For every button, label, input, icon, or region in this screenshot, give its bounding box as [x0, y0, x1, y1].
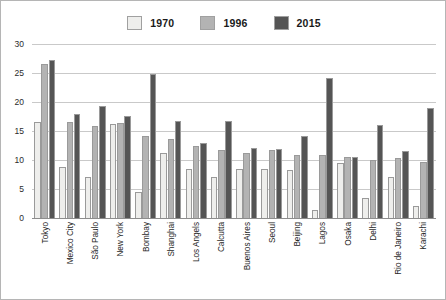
x-tick-label-los-angels: Los Angels [192, 222, 201, 262]
bar-2015-mexico-city [74, 114, 81, 218]
bar-2015-seoul [276, 149, 283, 218]
bar-group [184, 44, 209, 218]
bar-1996-los-angels [193, 146, 200, 218]
bar-group [234, 44, 259, 218]
bar-1996-mexico-city [67, 122, 74, 218]
bar-1970-los-angels [186, 169, 193, 218]
bar-1970-new-york [110, 124, 117, 218]
bar-2015-new-york [124, 116, 131, 218]
bar-2015-karachi [427, 108, 434, 218]
bar-1996-new-york [117, 123, 124, 218]
bar-1970-beijing [287, 170, 294, 218]
bar-1996-rio-de-janeiro [395, 158, 402, 218]
bar-1970-lagos [312, 210, 319, 218]
x-tick-label-osaka: Osaka [343, 222, 352, 246]
y-tick-10: 10 [15, 155, 24, 165]
bar-2015-são-paulo [99, 106, 106, 218]
y-tick-25: 25 [15, 68, 24, 78]
bar-1970-bombay [135, 192, 142, 218]
bar-1996-buenos-aires [243, 153, 250, 218]
bar-2015-osaka [352, 157, 359, 218]
x-tick: Beijing [285, 220, 310, 298]
bar-groups [32, 44, 436, 218]
gridline-0 [32, 218, 436, 219]
bar-group [209, 44, 234, 218]
bar-group [57, 44, 82, 218]
x-tick: Buenos Aires [234, 220, 259, 298]
bar-group [259, 44, 284, 218]
bar-1970-são-paulo [85, 177, 92, 218]
bar-1996-osaka [344, 157, 351, 218]
bar-1970-mexico-city [59, 167, 66, 218]
x-tick-label-karachi: Karachi [419, 222, 428, 250]
bar-group [108, 44, 133, 218]
x-tick: Seoul [259, 220, 284, 298]
x-tick-label-new-york: New York [116, 222, 125, 257]
bar-2015-rio-de-janeiro [402, 151, 409, 218]
bar-1970-buenos-aires [236, 169, 243, 218]
legend-swatch-1970 [127, 16, 142, 30]
x-tick: Mexico City [57, 220, 82, 298]
bar-group [360, 44, 385, 218]
x-tick: Bombay [133, 220, 158, 298]
bar-2015-calcutta [225, 121, 232, 218]
y-tick-15: 15 [15, 126, 24, 136]
x-tick: Osaka [335, 220, 360, 298]
bar-1970-karachi [413, 206, 420, 218]
bar-1996-karachi [420, 162, 427, 218]
x-tick-label-rio-de-janeiro: Rio de Janeiro [394, 222, 403, 275]
x-tick: São Paulo [83, 220, 108, 298]
legend-label-1996: 1996 [223, 17, 247, 29]
bar-1996-shanghai [168, 139, 175, 218]
y-tick-0: 0 [19, 213, 24, 223]
legend-swatch-1996 [200, 16, 215, 30]
y-tick-5: 5 [19, 184, 24, 194]
bar-group [133, 44, 158, 218]
bar-group [411, 44, 436, 218]
bar-1996-beijing [294, 155, 301, 218]
plot-area [32, 44, 436, 218]
y-tick-30: 30 [15, 39, 24, 49]
bar-2015-bombay [150, 74, 157, 218]
bar-1996-são-paulo [92, 126, 99, 218]
x-tick-label-mexico-city: Mexico City [65, 222, 74, 264]
x-tick-label-buenos-aires: Buenos Aires [242, 222, 251, 270]
bar-1996-delhi [370, 160, 377, 218]
y-tick-20: 20 [15, 97, 24, 107]
bar-group [310, 44, 335, 218]
x-tick: Delhi [360, 220, 385, 298]
legend-entry-1996[interactable]: 1996 [200, 16, 247, 30]
x-tick-label-são-paulo: São Paulo [91, 222, 100, 260]
legend-entry-2015[interactable]: 2015 [274, 16, 321, 30]
bar-2015-los-angels [200, 143, 207, 218]
bar-group [285, 44, 310, 218]
bar-1996-tokyo [41, 64, 48, 218]
bar-group [32, 44, 57, 218]
bar-2015-lagos [326, 78, 333, 218]
bar-1996-calcutta [218, 150, 225, 218]
chart-legend: 197019962015 [1, 13, 446, 33]
x-tick-label-delhi: Delhi [368, 222, 377, 241]
bar-2015-shanghai [175, 121, 182, 218]
x-tick: Tokyo [32, 220, 57, 298]
x-tick: Los Angels [184, 220, 209, 298]
x-tick-label-beijing: Beijing [293, 222, 302, 247]
y-axis-labels: 051015202530 [1, 44, 29, 218]
bar-1996-seoul [269, 150, 276, 218]
legend-swatch-2015 [274, 16, 289, 30]
bar-group [335, 44, 360, 218]
x-tick: New York [108, 220, 133, 298]
bar-2015-delhi [377, 125, 384, 218]
x-tick-label-seoul: Seoul [267, 222, 276, 243]
bar-2015-buenos-aires [251, 148, 258, 218]
x-tick-label-bombay: Bombay [141, 222, 150, 252]
bar-2015-beijing [301, 136, 308, 218]
bar-1970-osaka [337, 163, 344, 218]
bar-1996-lagos [319, 155, 326, 218]
bar-group [83, 44, 108, 218]
bar-1970-seoul [261, 169, 268, 218]
x-tick: Lagos [310, 220, 335, 298]
x-tick-label-tokyo: Tokyo [40, 222, 49, 243]
legend-entry-1970[interactable]: 1970 [127, 16, 174, 30]
x-tick-label-calcutta: Calcutta [217, 222, 226, 252]
